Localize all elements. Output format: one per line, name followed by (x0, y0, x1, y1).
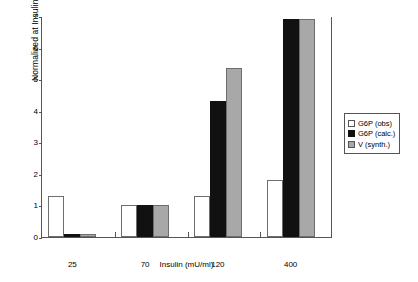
bar (194, 196, 210, 237)
y-tick-mark (39, 80, 42, 81)
y-tick-label: 5 (12, 76, 42, 84)
bar (121, 205, 137, 237)
legend-swatch (348, 120, 355, 127)
x-tick-mark (115, 232, 116, 237)
y-tick-label: 6 (12, 45, 42, 53)
bar (137, 205, 153, 237)
bar (267, 180, 283, 237)
bar (64, 234, 80, 237)
y-tick-label: 7 (12, 13, 42, 21)
legend-label: V (synth.) (358, 140, 390, 149)
bar (153, 205, 169, 237)
y-tick-mark (39, 49, 42, 50)
y-tick-mark (39, 206, 42, 207)
legend-item: V (synth.) (348, 140, 395, 149)
x-tick-mark (188, 232, 189, 237)
legend-swatch (348, 141, 355, 148)
y-tick-label: 0 (12, 234, 42, 242)
y-tick-mark (39, 143, 42, 144)
y-tick-mark (39, 238, 42, 239)
legend-label: G6P (obs) (358, 119, 392, 128)
bar (283, 19, 299, 237)
y-tick-label: 1 (12, 202, 42, 210)
y-tick-mark (39, 17, 42, 18)
chart-figure: Normalized at Insulin = 70 01234567 2570… (0, 0, 418, 282)
bar (80, 234, 96, 237)
y-tick-label: 3 (12, 139, 42, 147)
plot-area: Normalized at Insulin = 70 01234567 2570… (41, 17, 332, 238)
y-tick-mark (39, 175, 42, 176)
y-tick-label: 2 (12, 171, 42, 179)
bar (299, 19, 315, 237)
y-tick-label: 4 (12, 108, 42, 116)
bar (210, 101, 226, 237)
legend-item: G6P (calc.) (348, 129, 395, 138)
bar (48, 196, 64, 237)
x-tick-mark (260, 232, 261, 237)
legend-item: G6P (obs) (348, 119, 395, 128)
y-tick-mark (39, 112, 42, 113)
chart-legend: G6P (obs)G6P (calc.)V (synth.) (344, 113, 400, 154)
x-axis-label: Insulin (mU/ml) (41, 260, 332, 269)
bar (226, 68, 242, 237)
legend-swatch (348, 130, 355, 137)
legend-label: G6P (calc.) (358, 129, 395, 138)
